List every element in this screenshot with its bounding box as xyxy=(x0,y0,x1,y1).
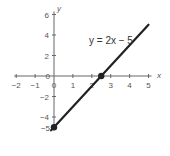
equation-annotation: y = 2x − 5 xyxy=(89,35,133,46)
y-tick-label: −2 xyxy=(40,93,50,102)
x-tick-label: 1 xyxy=(71,81,76,90)
y-intercept-point xyxy=(51,124,57,130)
ticks: −2−1012345−4−20246−5 xyxy=(12,11,152,134)
y-axis-label: y xyxy=(56,4,62,13)
axes xyxy=(14,12,151,131)
x-tick-label: 5 xyxy=(146,81,151,90)
y-tick-label: 6 xyxy=(45,11,50,20)
y-tick-label: 0 xyxy=(46,72,51,81)
y-tick-label: −4 xyxy=(40,113,50,122)
x-tick-label: 4 xyxy=(127,81,132,90)
x-tick-label: 0 xyxy=(52,81,57,90)
line-chart: −2−1012345−4−20246−5 y = 2x − 5 x y xyxy=(0,0,170,156)
x-intercept-point xyxy=(98,73,104,79)
x-tick-label: −1 xyxy=(31,81,41,90)
y-tick-label: 4 xyxy=(45,31,50,40)
x-tick-label: 3 xyxy=(108,81,113,90)
y-tick-label-minus5: −5 xyxy=(41,124,51,133)
x-axis-label: x xyxy=(156,71,162,80)
x-tick-label: −2 xyxy=(12,81,22,90)
y-tick-label: 2 xyxy=(45,52,50,61)
